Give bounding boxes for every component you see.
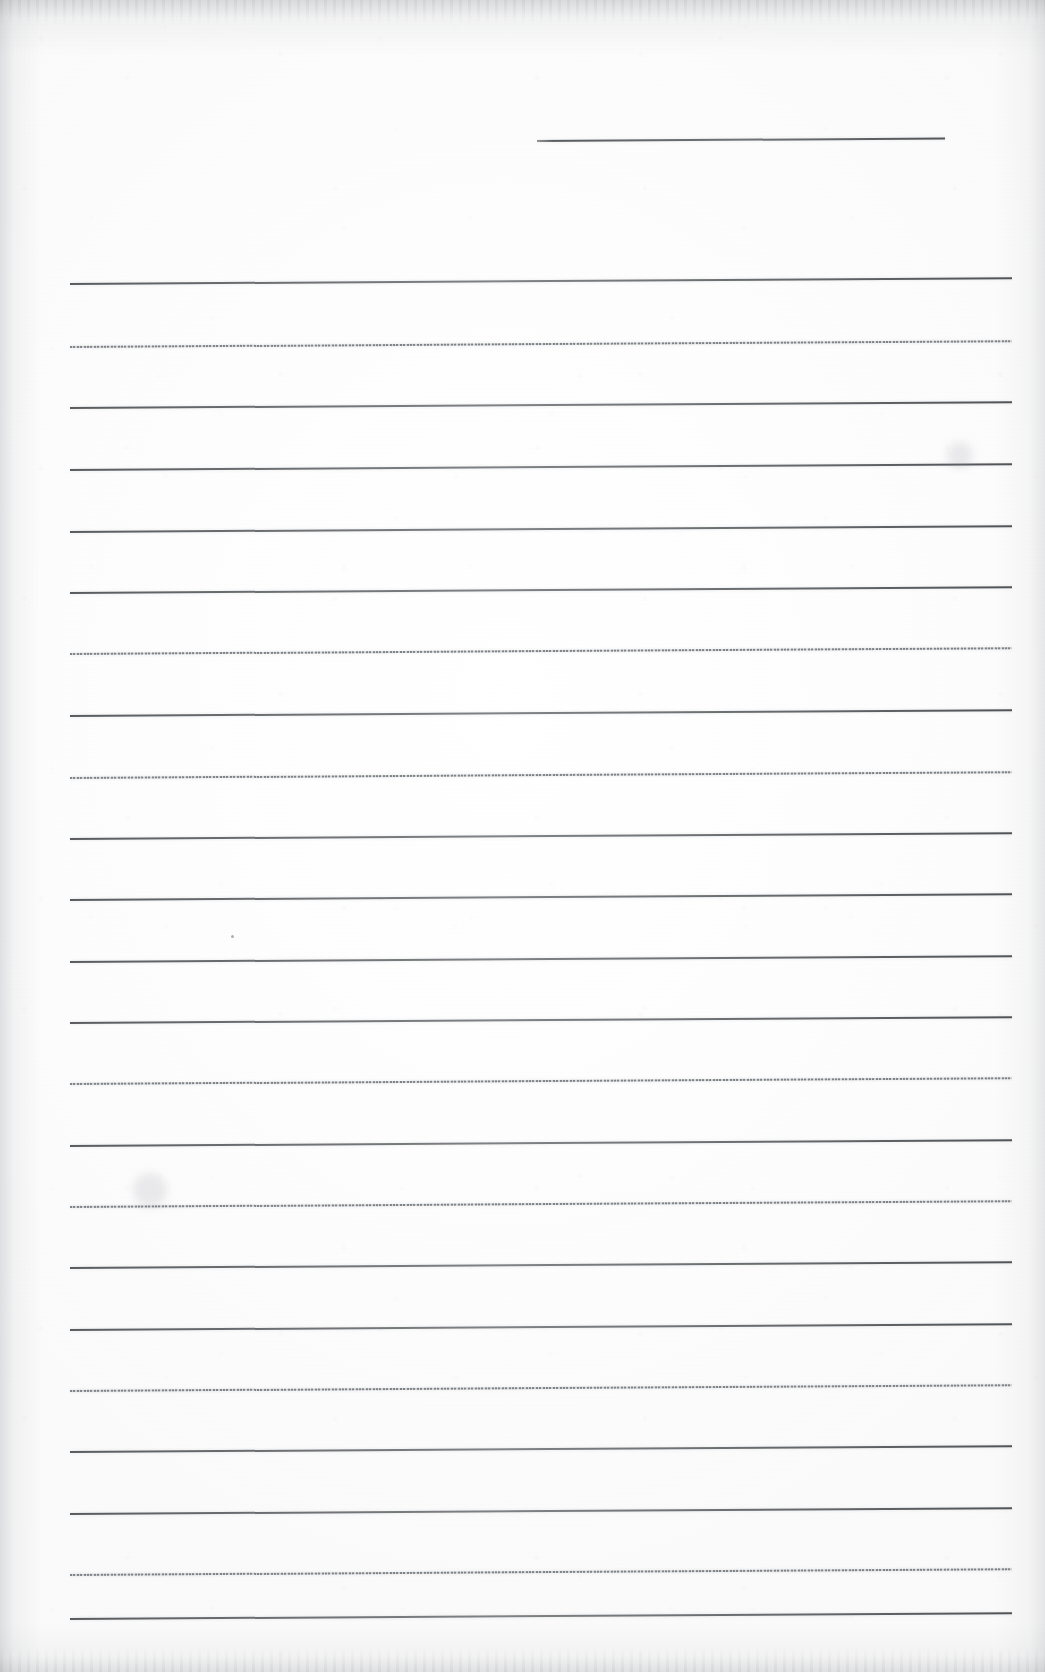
ruled-line-17 xyxy=(70,1261,1012,1268)
ruled-line-13 xyxy=(70,1016,1012,1023)
ruled-line-22 xyxy=(70,1568,1012,1575)
ruled-line-6 xyxy=(70,586,1012,593)
ruled-line-19 xyxy=(70,1384,1012,1391)
scanned-page xyxy=(0,0,1045,1672)
ruled-line-11 xyxy=(70,893,1012,900)
ruled-line-9 xyxy=(70,771,1012,778)
ruled-lines-layer xyxy=(0,0,1045,1672)
ruled-line-15 xyxy=(70,1139,1012,1146)
ruled-line-18 xyxy=(70,1323,1012,1330)
ruled-line-3 xyxy=(70,401,1012,408)
ruled-line-5 xyxy=(70,525,1012,532)
ruled-line-8 xyxy=(70,709,1012,716)
ruled-line-14 xyxy=(70,1077,1012,1084)
ruled-line-16 xyxy=(70,1200,1012,1207)
ink-speck xyxy=(231,935,234,938)
ruled-line-21 xyxy=(70,1507,1012,1514)
ruled-line-1 xyxy=(70,277,1012,284)
paper-smudge xyxy=(133,1173,167,1207)
ruled-line-10 xyxy=(70,832,1012,839)
paper-smudge xyxy=(947,442,973,468)
ruled-line-23 xyxy=(70,1612,1012,1619)
ruled-line-12 xyxy=(70,955,1012,962)
ruled-line-4 xyxy=(70,463,1012,470)
ruled-line-2 xyxy=(70,340,1012,347)
ruled-line-7 xyxy=(70,647,1012,654)
ruled-line-20 xyxy=(70,1445,1012,1452)
header-rule xyxy=(537,138,945,142)
